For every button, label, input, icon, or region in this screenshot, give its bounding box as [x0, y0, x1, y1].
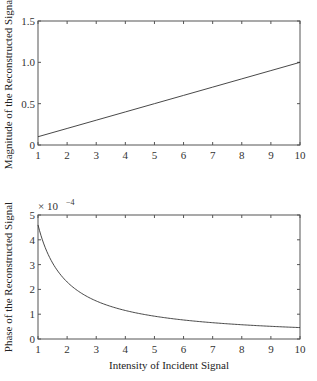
y-tick-label: 5 [30, 209, 36, 221]
y-tick-label: 1.0 [21, 56, 35, 68]
y-tick-label: 1 [30, 308, 36, 320]
x-tick-label: 4 [123, 149, 129, 161]
x-tick-label: 4 [123, 343, 129, 355]
x-tick-label: 2 [64, 343, 70, 355]
series-line [38, 225, 300, 328]
y-tick-label: 1.5 [21, 15, 35, 27]
y-tick-label: 3 [30, 259, 36, 271]
x-axis-label: Intensity of Incident Signal [109, 359, 229, 371]
magnitude-plot-frame [38, 21, 300, 145]
x-tick-label: 1 [35, 343, 41, 355]
y-axis-label: Magnitude of the Reconstructed Signal [2, 0, 14, 169]
y-tick-label: 0 [30, 139, 36, 151]
y-multiplier-exponent: −4 [66, 198, 75, 207]
x-tick-label: 6 [181, 343, 187, 355]
x-tick-label: 3 [93, 149, 99, 161]
y-tick-label: 4 [30, 234, 36, 246]
series-line [38, 62, 300, 136]
y-multiplier: × 10 [38, 200, 58, 212]
x-tick-label: 2 [64, 149, 70, 161]
y-tick-label: 0.5 [21, 98, 35, 110]
x-tick-label: 7 [210, 149, 216, 161]
x-tick-label: 9 [268, 343, 274, 355]
x-tick-label: 10 [295, 149, 307, 161]
x-tick-label: 7 [210, 343, 216, 355]
x-tick-label: 1 [35, 149, 41, 161]
x-tick-label: 8 [239, 149, 245, 161]
x-tick-label: 8 [239, 343, 245, 355]
y-tick-label: 0 [30, 333, 36, 345]
x-tick-label: 3 [93, 343, 99, 355]
x-tick-label: 10 [295, 343, 307, 355]
x-tick-label: 5 [152, 149, 158, 161]
x-tick-label: 5 [152, 343, 158, 355]
phase-plot-frame [38, 215, 300, 339]
y-tick-label: 2 [30, 283, 36, 295]
x-tick-label: 9 [268, 149, 274, 161]
figure: 1234567891000.51.01.5Magnitude of the Re… [0, 0, 317, 381]
x-tick-label: 6 [181, 149, 187, 161]
y-axis-label: Phase of the Reconstructed Signal [2, 202, 14, 352]
